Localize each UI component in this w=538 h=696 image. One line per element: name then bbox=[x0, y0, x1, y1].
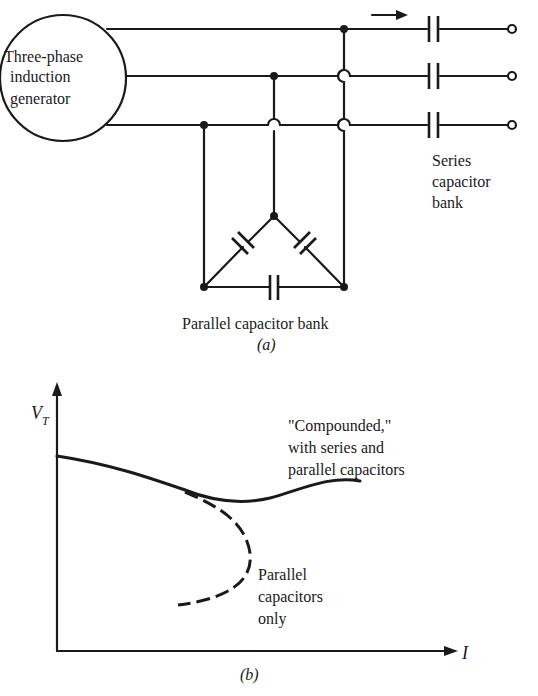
compounded-label-line2: with series and bbox=[288, 439, 384, 456]
parallel-capacitor-left bbox=[232, 232, 254, 254]
parallel-capacitor-bottom bbox=[270, 275, 278, 300]
output-terminal-3 bbox=[508, 121, 516, 129]
output-terminal-2 bbox=[508, 72, 516, 80]
compounded-label-line1: "Compounded," bbox=[288, 417, 391, 435]
delta-right-lower-wire bbox=[305, 247, 344, 287]
figure-a-caption: (a) bbox=[257, 336, 276, 354]
series-bank-label-line3: bank bbox=[432, 194, 463, 211]
delta-left-upper-wire bbox=[249, 216, 274, 241]
output-terminal-1 bbox=[508, 25, 516, 33]
junction-dot bbox=[270, 72, 278, 80]
figure-canvas: Three-phase induction generator bbox=[0, 0, 538, 696]
y-axis-arrow-icon bbox=[52, 382, 62, 396]
generator-label-line3: generator bbox=[10, 90, 71, 108]
delta-left-lower-wire bbox=[204, 247, 243, 287]
vt-vs-i-plot: VT I "Compounded," with series and paral… bbox=[31, 382, 469, 684]
right-arrow-icon bbox=[372, 10, 408, 20]
x-axis-label: I bbox=[461, 643, 469, 663]
compounded-label-line3: parallel capacitors bbox=[288, 461, 405, 479]
parallel-only-label-line3: only bbox=[258, 610, 286, 628]
parallel-only-curve bbox=[178, 492, 250, 605]
generator-label-line1: Three-phase bbox=[4, 48, 83, 66]
junction-dot bbox=[340, 25, 348, 33]
junction-dot bbox=[200, 121, 208, 129]
series-capacitor-3 bbox=[429, 112, 438, 138]
figure-b-caption: (b) bbox=[240, 666, 259, 684]
series-bank-label-line2: capacitor bbox=[432, 173, 491, 191]
parallel-only-label-line1: Parallel bbox=[258, 566, 307, 583]
series-capacitor-2 bbox=[429, 63, 438, 89]
generator-label-line2: induction bbox=[10, 68, 70, 85]
y-axis-label: VT bbox=[31, 403, 50, 428]
circuit-diagram: Three-phase induction generator bbox=[0, 10, 516, 354]
x-axis-arrow-icon bbox=[444, 646, 458, 656]
phase-line-3 bbox=[107, 119, 427, 125]
parallel-bank-label: Parallel capacitor bank bbox=[182, 315, 329, 333]
tap-line-1 bbox=[338, 29, 344, 287]
series-bank-label-line1: Series bbox=[432, 152, 471, 169]
parallel-capacitor-right bbox=[294, 232, 316, 254]
delta-right-upper-wire bbox=[274, 216, 299, 241]
parallel-only-label-line2: capacitors bbox=[258, 588, 323, 606]
series-capacitor-1 bbox=[429, 16, 438, 42]
